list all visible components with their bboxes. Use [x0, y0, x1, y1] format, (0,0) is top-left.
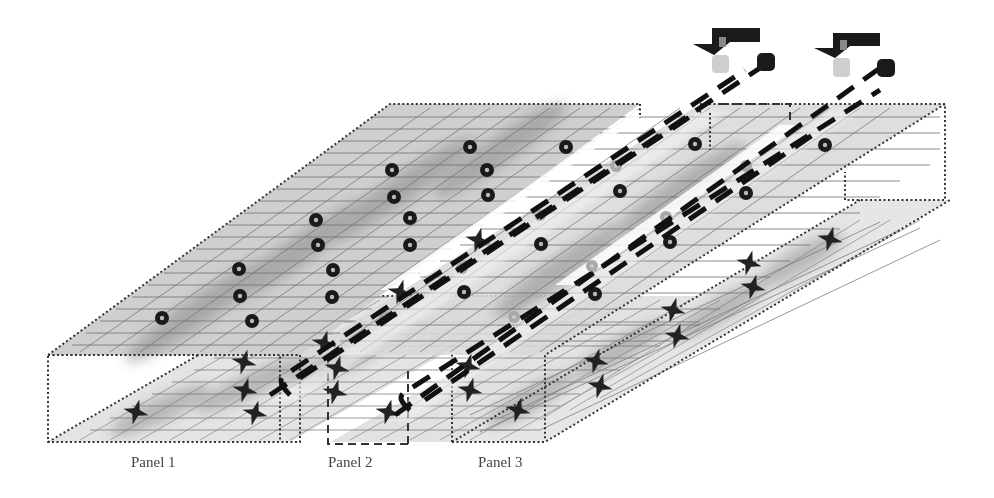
isometric-panel-diagram	[0, 0, 994, 498]
arrow-down-source-icon	[693, 28, 760, 55]
source-2	[814, 33, 895, 77]
panel-2-label: Panel 2	[328, 454, 373, 471]
source-1	[693, 28, 775, 73]
panel-3-label: Panel 3	[478, 454, 523, 471]
panel-1-label: Panel 1	[131, 454, 176, 471]
